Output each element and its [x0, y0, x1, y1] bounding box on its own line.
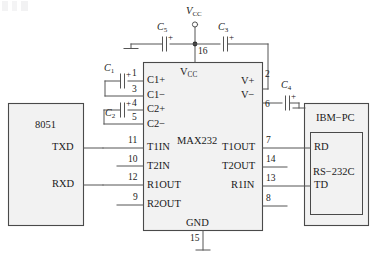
- pin-label-t1in: T1IN: [147, 142, 170, 153]
- pin-number-13: 13: [266, 174, 276, 184]
- pin-number-3: 3: [132, 85, 137, 95]
- pin-label-t2in: T2IN: [147, 161, 170, 172]
- ic-vcc-pin-number: 16: [198, 47, 208, 57]
- vcc-supply-label: VCC: [186, 6, 202, 18]
- ic-name-label: MAX232: [177, 136, 217, 147]
- ic-gnd-pin-number: 15: [190, 234, 200, 244]
- pin-number-5: 5: [132, 113, 137, 123]
- capacitor-c4-label: C4: [281, 80, 291, 92]
- mcu-pin-txd: TXD: [52, 142, 74, 153]
- pin-number-7: 7: [266, 136, 271, 146]
- ibm-pc-label: IBM−PC: [316, 113, 355, 124]
- rs232c-label: RS−232C: [313, 167, 355, 178]
- pc-pin-rd: RD: [314, 142, 329, 153]
- pin-number-14: 14: [266, 155, 276, 165]
- pc-pin-td: TD: [314, 180, 328, 191]
- c4-polarity-mark: +: [291, 92, 296, 101]
- pin-number-10: 10: [128, 155, 138, 165]
- pin-label-r1out: R1OUT: [147, 180, 181, 191]
- pin-label-vminus: V−: [241, 90, 255, 101]
- ic-gnd-pin-label: GND: [186, 218, 209, 229]
- pin-label-c2m: C2−: [147, 119, 165, 130]
- pin-number-1: 1: [132, 69, 137, 79]
- pin-number-4: 4: [132, 99, 137, 109]
- mcu-8051-label: 8051: [35, 120, 56, 131]
- pin-label-t2out: T2OUT: [222, 161, 255, 172]
- capacitor-c2-label: C2: [105, 108, 115, 120]
- capacitor-c5-label: C5: [157, 22, 167, 34]
- pin-number-8: 8: [266, 194, 271, 204]
- pin-number-2: 2: [265, 70, 270, 80]
- pin-label-vplus: V+: [241, 76, 255, 87]
- c1-polarity-mark: +: [126, 70, 131, 79]
- pin-label-r1in: R1IN: [231, 180, 254, 191]
- pin-label-c1m: C1−: [147, 90, 165, 101]
- capacitor-c1-label: C1: [104, 63, 114, 75]
- c2-polarity-mark: +: [126, 99, 131, 108]
- ic-vcc-pin-label: VCC: [180, 67, 197, 79]
- schematic-canvas: VCC C5 + C3 + C1 + C2 + C4 + MAX232 VCC …: [0, 0, 377, 264]
- pin-number-11: 11: [128, 136, 137, 146]
- pin-number-9: 9: [133, 193, 138, 203]
- pin-number-6: 6: [265, 100, 270, 110]
- pin-label-r2out: R2OUT: [147, 199, 181, 210]
- capacitor-c3-label: C3: [218, 22, 228, 34]
- vcc-terminal-circle: [192, 22, 197, 27]
- c5-polarity-mark: +: [168, 33, 173, 42]
- pin-label-c1p: C1+: [147, 75, 165, 86]
- mcu-pin-rxd: RXD: [52, 179, 74, 190]
- c3-polarity-mark: +: [229, 33, 234, 42]
- pin-number-12: 12: [128, 173, 138, 183]
- pin-label-c2p: C2+: [147, 104, 165, 115]
- pin-label-t1out: T1OUT: [222, 142, 255, 153]
